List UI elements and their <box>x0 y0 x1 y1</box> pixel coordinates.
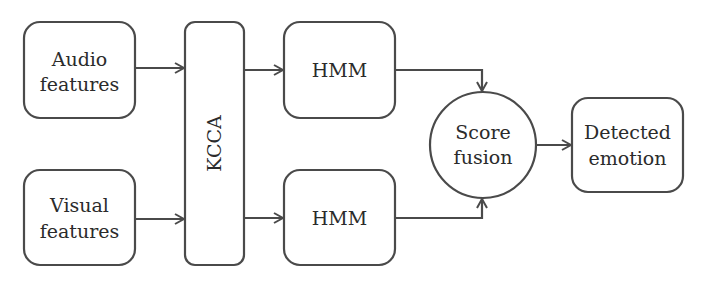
kcca-node: KCCA <box>185 22 244 265</box>
kcca-label: KCCA <box>203 115 225 172</box>
visual-features-label-line2: features <box>40 220 120 242</box>
hmm-bottom-node: HMM <box>284 170 395 265</box>
hmm-top-node: HMM <box>284 22 395 118</box>
audio-features-label-line1: Audio <box>51 48 108 70</box>
score-fusion-label-line1: Score <box>455 121 510 143</box>
score-fusion-node: Score fusion <box>430 92 536 198</box>
visual-features-node: Visual features <box>24 170 135 265</box>
audio-features-node: Audio features <box>24 22 135 118</box>
audio-features-label-line2: features <box>40 73 120 95</box>
edge-hmm-bottom-to-fusion <box>395 199 482 218</box>
score-fusion-label-line2: fusion <box>454 146 513 168</box>
detected-emotion-label-line2: emotion <box>588 147 666 169</box>
edge-hmm-top-to-fusion <box>395 70 482 91</box>
hmm-bottom-label: HMM <box>312 207 367 229</box>
detected-emotion-node: Detected emotion <box>572 98 683 192</box>
detected-emotion-label-line1: Detected <box>584 121 671 143</box>
hmm-top-label: HMM <box>312 59 367 81</box>
visual-features-label-line1: Visual <box>49 194 109 216</box>
pipeline-diagram: Audio features Visual features KCCA HMM … <box>0 0 705 288</box>
